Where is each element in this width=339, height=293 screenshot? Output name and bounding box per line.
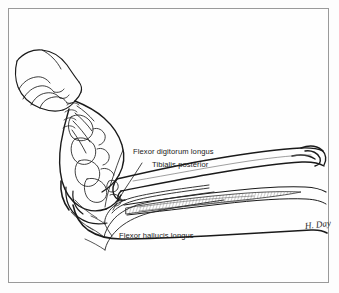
finger-tips [54, 89, 75, 103]
label-flexor-hallucis-longus: Flexor hallucis longus [119, 231, 194, 240]
hand-grasping-forefoot [16, 50, 82, 111]
flexor-hallucis-longus-muscle-belly [126, 192, 301, 214]
anatomy-illustration [9, 9, 328, 282]
figure-root: Flexor digitorum longus Tibialis posteri… [0, 0, 339, 293]
plate-frame: Flexor digitorum longus Tibialis posteri… [8, 8, 329, 283]
label-flexor-digitorum-longus: Flexor digitorum longus [133, 147, 214, 156]
label-tibialis-posterior: Tibialis posterior [152, 160, 208, 169]
heel-contour [66, 187, 107, 224]
